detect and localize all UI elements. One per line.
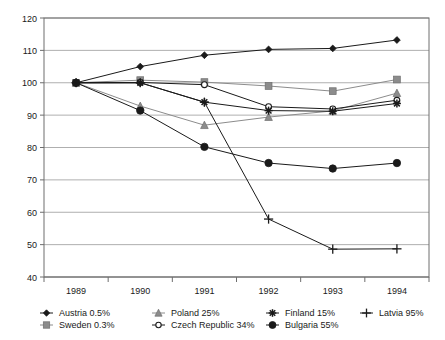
legend-item-finland: Finland 15% bbox=[266, 308, 335, 318]
y-tick-label-90: 90 bbox=[27, 111, 37, 121]
chart-canvas: 4050607080901001101201989199019911992199… bbox=[0, 0, 445, 340]
marker-diamond bbox=[43, 310, 49, 316]
y-tick-label-50: 50 bbox=[27, 240, 37, 250]
y-tick-label-100: 100 bbox=[22, 78, 37, 88]
legend-label-finland: Finland 15% bbox=[285, 308, 335, 318]
legend-item-latvia: Latvia 95% bbox=[360, 308, 424, 318]
y-tick-label-70: 70 bbox=[27, 175, 37, 185]
marker-circle bbox=[265, 159, 272, 166]
legend-item-sweden: Sweden 0.3% bbox=[40, 320, 115, 330]
legend-label-bulgaria: Bulgaria 55% bbox=[285, 320, 339, 330]
marker-circle bbox=[201, 143, 208, 150]
x-tick-label-1992: 1992 bbox=[259, 286, 279, 296]
y-tick-label-60: 60 bbox=[27, 208, 37, 218]
marker-square bbox=[265, 83, 272, 90]
marker-plus bbox=[362, 309, 371, 318]
legend-item-poland: Poland 25% bbox=[152, 308, 220, 318]
marker-asterisk bbox=[393, 99, 401, 107]
y-tick-label-110: 110 bbox=[23, 46, 37, 56]
x-tick-label-1989: 1989 bbox=[66, 286, 86, 296]
legend-item-czech-republic: Czech Republic 34% bbox=[152, 320, 255, 330]
marker-circle bbox=[329, 165, 336, 172]
legend-label-austria: Austria 0.5% bbox=[59, 308, 110, 318]
legend-item-bulgaria: Bulgaria 55% bbox=[266, 320, 339, 330]
marker-square bbox=[394, 76, 401, 83]
legend-label-sweden: Sweden 0.3% bbox=[59, 320, 115, 330]
marker-asterisk bbox=[329, 107, 337, 115]
y-tick-label-80: 80 bbox=[27, 143, 37, 153]
x-tick-label-1993: 1993 bbox=[323, 286, 343, 296]
marker-circle bbox=[393, 159, 400, 166]
marker-asterisk bbox=[269, 309, 277, 317]
legend-label-latvia: Latvia 95% bbox=[379, 308, 424, 318]
marker-square bbox=[329, 88, 336, 95]
line-chart: 4050607080901001101201989199019911992199… bbox=[0, 0, 445, 340]
legend-item-austria: Austria 0.5% bbox=[40, 308, 110, 318]
x-tick-label-1991: 1991 bbox=[194, 286, 214, 296]
x-tick-label-1994: 1994 bbox=[387, 286, 407, 296]
marker-asterisk bbox=[265, 107, 273, 115]
marker-circle bbox=[269, 322, 276, 329]
marker-open-circle bbox=[156, 322, 161, 327]
legend-label-czech-republic: Czech Republic 34% bbox=[171, 320, 255, 330]
x-tick-label-1990: 1990 bbox=[130, 286, 150, 296]
marker-circle bbox=[137, 107, 144, 114]
marker-open-circle bbox=[202, 82, 208, 88]
y-tick-label-40: 40 bbox=[27, 273, 37, 283]
marker-square bbox=[43, 322, 49, 328]
y-tick-label-120: 120 bbox=[22, 14, 37, 24]
legend-label-poland: Poland 25% bbox=[171, 308, 220, 318]
